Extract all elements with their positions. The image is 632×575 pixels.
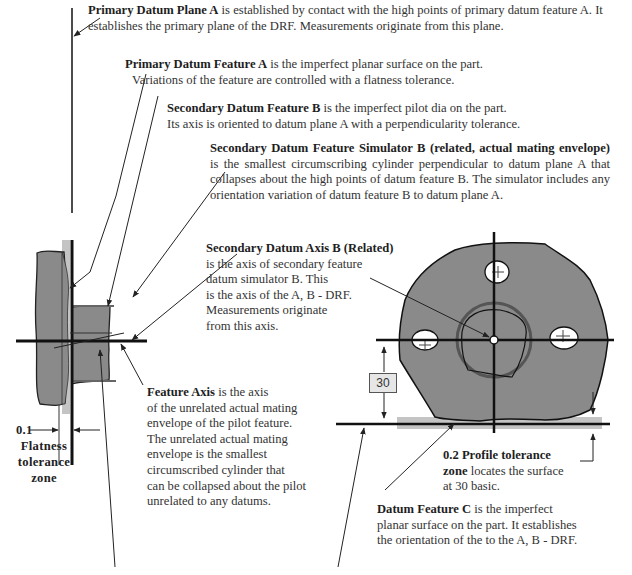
- note-secondary-datum-axis-b: Secondary Datum Axis B (Related) is the …: [206, 241, 406, 335]
- label-line: Flatness: [14, 438, 74, 454]
- note-body: is the smallest circumscribing cylinder …: [210, 157, 610, 202]
- note-body-line2: Variations of the feature are controlled…: [125, 73, 595, 89]
- note-title: Feature Axis: [147, 385, 215, 399]
- note-body: is the imperfect: [471, 502, 552, 516]
- note-line: can be collapsed about the pilot: [147, 479, 327, 495]
- note-title: Primary Datum Plane A: [88, 3, 218, 17]
- label-line: zone: [14, 470, 74, 486]
- note-line: planar surface on the part. It establish…: [377, 518, 627, 534]
- note-body: is the imperfect pilot dia on the part.: [320, 101, 506, 115]
- basic-dimension-box: 30: [369, 373, 397, 393]
- note-secondary-datum-simulator-b: Secondary Datum Feature Simulator B (rel…: [210, 141, 610, 203]
- pilot-feature: [72, 306, 110, 384]
- note-title: 0.2 Profile tolerance: [443, 448, 551, 462]
- note-profile-tolerance-zone: 0.2 Profile tolerance zone locates the s…: [443, 448, 593, 495]
- note-secondary-datum-feature-b: Secondary Datum Feature B is the imperfe…: [167, 101, 627, 132]
- note-primary-datum-plane-a: Primary Datum Plane A is established by …: [88, 3, 608, 34]
- note-line: is the axis of secondary feature: [206, 257, 406, 273]
- note-body: locates the surface: [467, 464, 563, 478]
- note-line: of the unrelated actual mating: [147, 401, 327, 417]
- note-primary-datum-feature-a: Primary Datum Feature A is the imperfect…: [125, 57, 595, 88]
- note-line: circumscribed cylinder that: [147, 463, 327, 479]
- note-body: is the axis: [215, 385, 269, 399]
- note-line: Measurements originate: [206, 303, 406, 319]
- note-line: from this axis.: [206, 319, 406, 335]
- note-title: Primary Datum Feature A: [125, 57, 267, 71]
- note-line: is the axis of the A, B - DRF.: [206, 288, 406, 304]
- note-body-line2: Its axis is oriented to datum plane A wi…: [167, 117, 627, 133]
- note-line: datum simulator B. This: [206, 272, 406, 288]
- note-feature-axis: Feature Axis is the axis of the unrelate…: [147, 385, 327, 510]
- note-line: envelope is the smallest: [147, 447, 327, 463]
- note-title-cont: zone: [443, 464, 467, 478]
- flatness-label-value: 0.1: [16, 422, 33, 438]
- label-line: tolerance: [14, 454, 74, 470]
- flatness-label: Flatness tolerance zone: [14, 438, 74, 486]
- note-line: the orientation of the to the A, B - DRF…: [377, 533, 627, 549]
- note-title: Secondary Datum Axis B (Related): [206, 241, 394, 255]
- note-title: Secondary Datum Feature Simulator B (rel…: [210, 141, 610, 155]
- note-title: Secondary Datum Feature B: [167, 101, 320, 115]
- note-line: The unrelated actual mating: [147, 432, 327, 448]
- note-line: at 30 basic.: [443, 479, 593, 495]
- note-datum-feature-c: Datum Feature C is the imperfect planar …: [377, 502, 627, 549]
- note-body: is the imperfect planar surface on the p…: [267, 57, 483, 71]
- flange-face: [62, 252, 69, 404]
- part-flange: [35, 251, 66, 405]
- note-title: Datum Feature C: [377, 502, 471, 516]
- hole-right: [550, 327, 578, 349]
- note-line: unrelated to any datums.: [147, 494, 327, 510]
- note-line: envelope of the pilot feature.: [147, 416, 327, 432]
